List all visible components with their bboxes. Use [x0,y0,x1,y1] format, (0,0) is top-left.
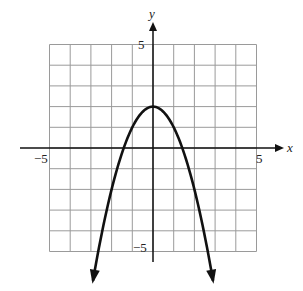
y-min-tick-label: −5 [133,241,147,254]
x-min-tick-label: −5 [34,152,48,165]
x-axis-label: x [287,141,293,154]
x-max-tick-label: 5 [256,152,263,165]
coordinate-plane [0,0,303,291]
axes [20,22,284,262]
y-axis-label: y [149,7,155,20]
curve-arrowheads [90,269,216,284]
y-max-tick-label: 5 [138,38,145,51]
